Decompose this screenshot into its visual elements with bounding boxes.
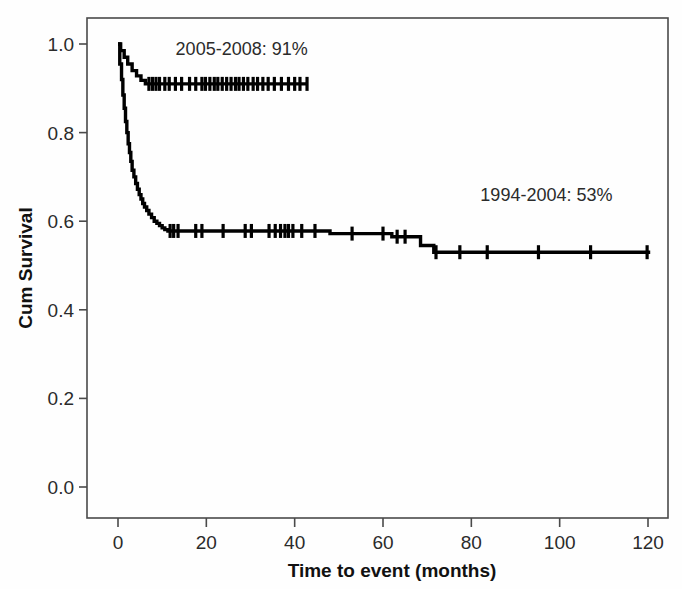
kaplan-meier-figure: 0.00.20.40.60.81.0 020406080100120 2005-… <box>0 0 682 589</box>
x-axis-ticks: 020406080100120 <box>113 518 664 553</box>
censoring-marks <box>149 77 647 259</box>
y-tick-label-4: 0.8 <box>48 123 74 144</box>
x-tick-label-6: 120 <box>632 532 664 553</box>
x-tick-label-2: 40 <box>284 532 305 553</box>
plot-border <box>87 18 668 518</box>
y-tick-label-3: 0.6 <box>48 211 74 232</box>
y-tick-label-2: 0.4 <box>48 300 75 321</box>
x-tick-label-5: 100 <box>544 532 576 553</box>
y-tick-label-0: 0.0 <box>48 477 74 498</box>
km-survival-chart: 0.00.20.40.60.81.0 020406080100120 2005-… <box>0 0 682 589</box>
x-tick-label-1: 20 <box>196 532 217 553</box>
x-axis-title: Time to event (months) <box>288 560 497 581</box>
x-tick-label-0: 0 <box>113 532 124 553</box>
y-tick-label-5: 1.0 <box>48 34 74 55</box>
x-tick-label-4: 80 <box>461 532 482 553</box>
x-tick-label-3: 60 <box>372 532 393 553</box>
annotation-1994-2004: 1994-2004: 53% <box>480 185 612 205</box>
y-axis-title: Cum Survival <box>15 207 36 328</box>
annotation-2005-2008: 2005-2008: 91% <box>176 39 308 59</box>
curve-annotations: 2005-2008: 91%1994-2004: 53% <box>176 39 613 205</box>
survival-curves <box>118 44 650 252</box>
plot-frame <box>87 18 668 518</box>
y-axis-ticks: 0.00.20.40.60.81.0 <box>48 34 87 498</box>
survival-curve-1994-2004 <box>118 44 650 252</box>
y-tick-label-1: 0.2 <box>48 388 74 409</box>
